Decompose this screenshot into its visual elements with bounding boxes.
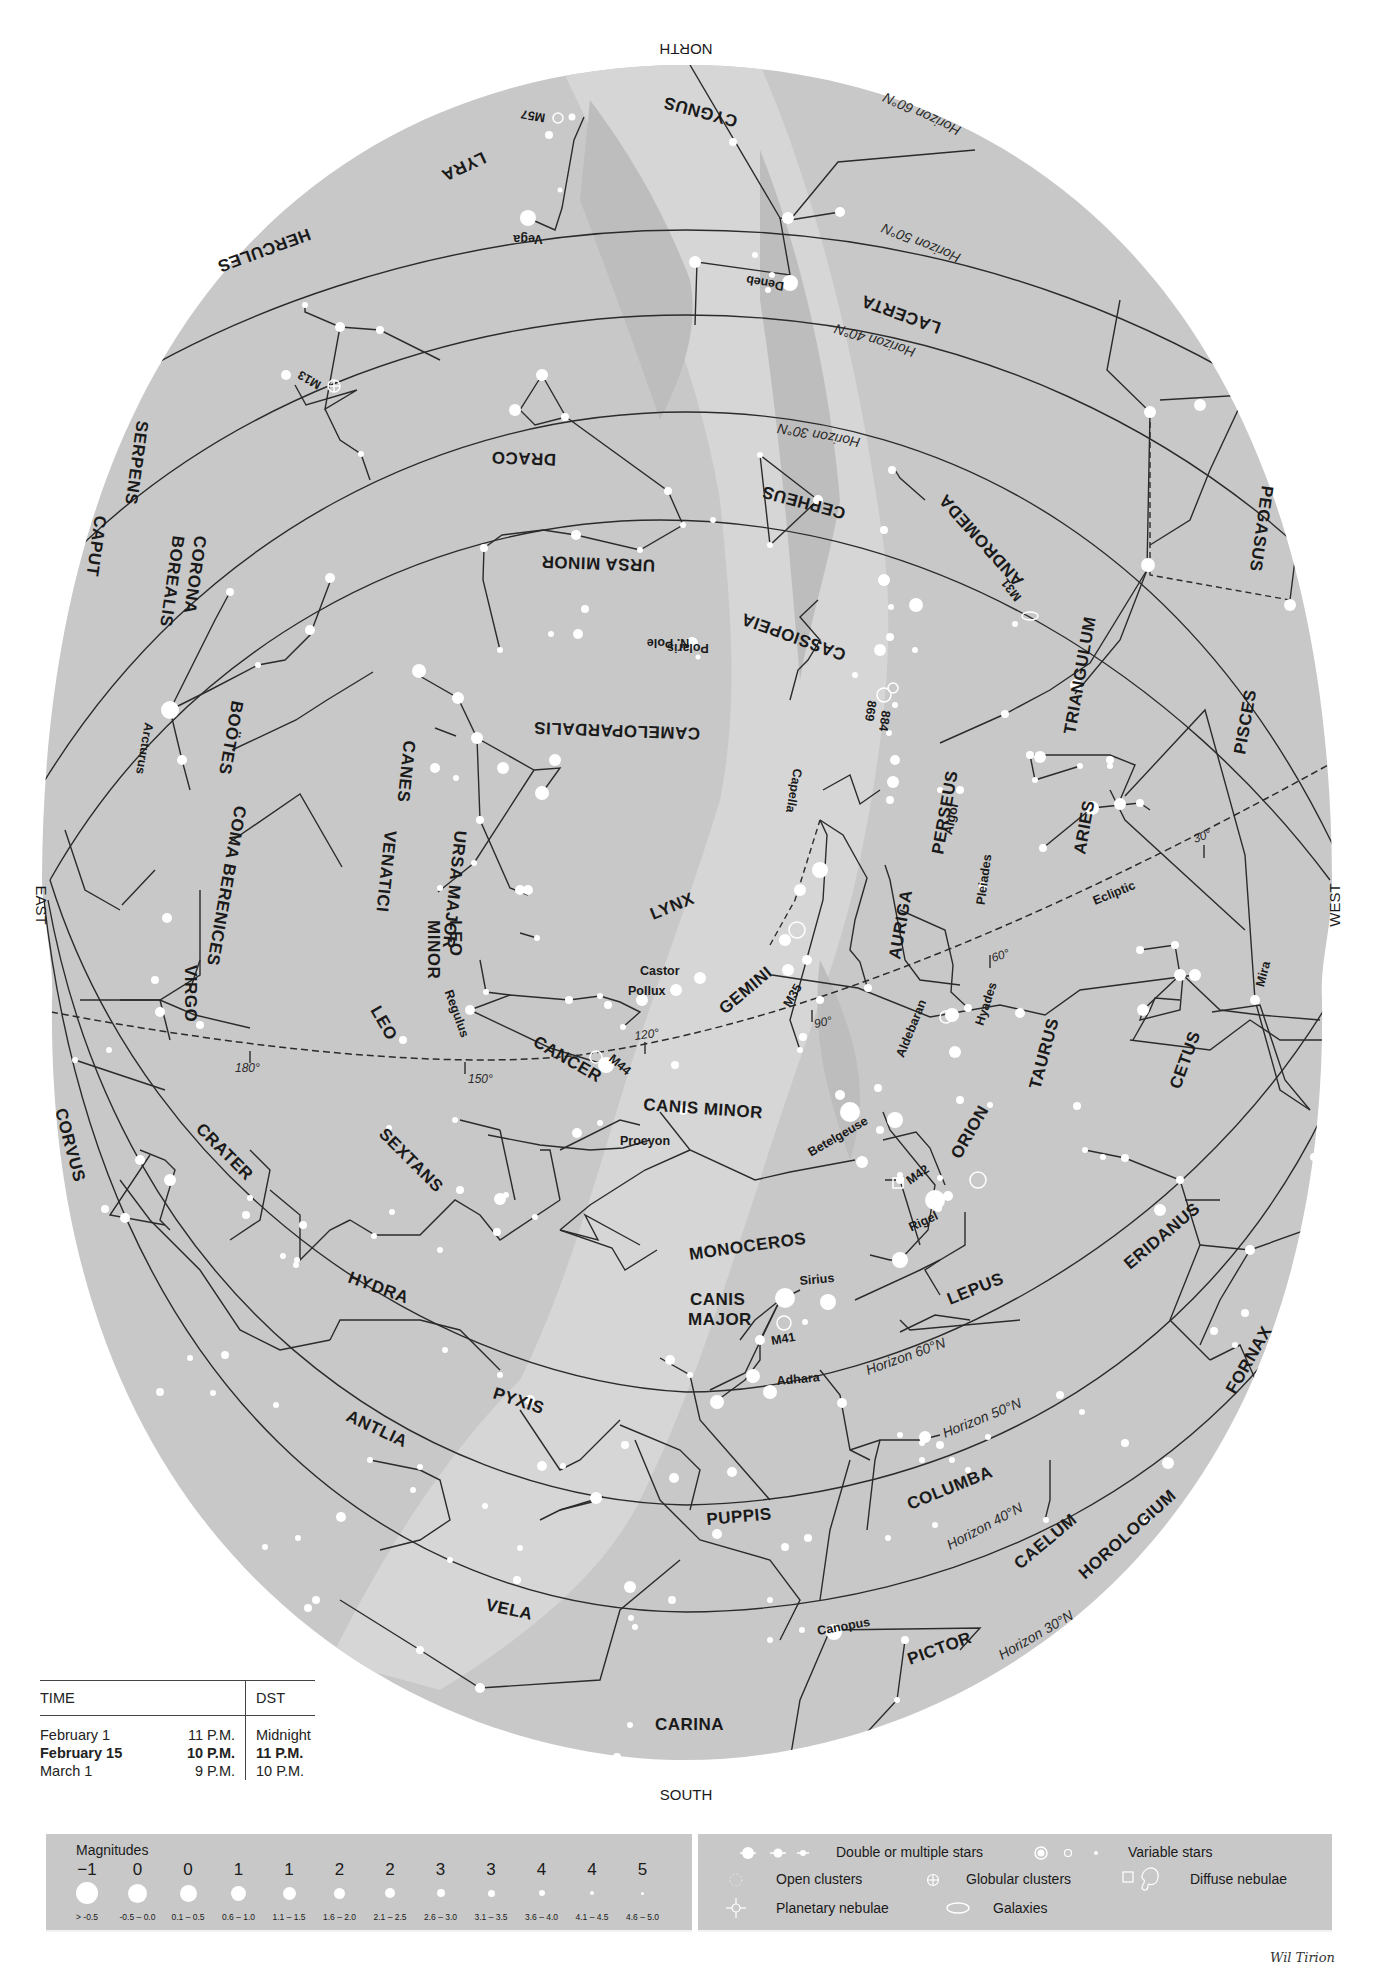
svg-text:Castor: Castor bbox=[640, 964, 680, 978]
magnitude-value: 5 bbox=[618, 1860, 668, 1880]
magnitude-dot-icon bbox=[488, 1890, 495, 1897]
svg-text:DRACO: DRACO bbox=[491, 448, 556, 469]
double-star-icon bbox=[738, 1844, 818, 1862]
svg-text:180°: 180° bbox=[235, 1061, 260, 1075]
magnitude-legend: Magnitudes −1> -0.50-0.5 – 0.000.1 – 0.5… bbox=[46, 1834, 692, 1932]
north-label: NORTH bbox=[659, 41, 712, 58]
magnitude-value: 0 bbox=[113, 1860, 163, 1880]
svg-text:CARINA: CARINA bbox=[655, 1715, 724, 1734]
magnitude-range: 4.6 – 5.0 bbox=[608, 1912, 678, 1922]
dst-header: DST bbox=[246, 1690, 285, 1706]
magnitude-dot-icon bbox=[539, 1890, 545, 1896]
time-row: March 1 9 P.M. 10 P.M. bbox=[40, 1762, 315, 1780]
legend-galaxies: Galaxies bbox=[993, 1900, 1047, 1916]
svg-text:884: 884 bbox=[876, 710, 893, 733]
magnitude-value: 4 bbox=[567, 1860, 617, 1880]
magnitude-value: 1 bbox=[214, 1860, 264, 1880]
svg-text:MAJOR: MAJOR bbox=[688, 1310, 752, 1329]
magnitude-value: −1 bbox=[62, 1860, 112, 1880]
svg-text:LEO: LEO bbox=[446, 920, 465, 956]
globular-cluster-icon bbox=[923, 1871, 943, 1889]
magnitude-dot-icon bbox=[283, 1887, 296, 1900]
star-chart: NORTH SOUTH EAST WEST CYGNUS LYRA HERCUL… bbox=[0, 0, 1373, 1820]
legend-globular-clusters: Globular clusters bbox=[966, 1871, 1071, 1887]
svg-text:N. Pole: N. Pole bbox=[647, 636, 689, 650]
magnitude-value: 1 bbox=[264, 1860, 314, 1880]
magnitude-value: 2 bbox=[315, 1860, 365, 1880]
magnitude-value: 3 bbox=[416, 1860, 466, 1880]
east-label: EAST bbox=[33, 885, 50, 924]
svg-text:MINOR: MINOR bbox=[424, 920, 443, 979]
svg-text:CANIS: CANIS bbox=[690, 1290, 745, 1309]
time-table: TIME DST February 1 11 P.M. Midnight Feb… bbox=[40, 1680, 315, 1780]
magnitude-dot-icon bbox=[590, 1891, 594, 1895]
magnitude-dot-icon bbox=[231, 1886, 246, 1901]
magnitude-dot-icon bbox=[128, 1884, 147, 1903]
south-label: SOUTH bbox=[660, 1786, 713, 1803]
symbol-legend: Double or multiple stars Variable stars … bbox=[698, 1834, 1332, 1932]
legend-diffuse-nebulae: Diffuse nebulae bbox=[1190, 1871, 1287, 1887]
svg-text:Pollux: Pollux bbox=[628, 984, 666, 998]
magnitude-value: 0 bbox=[163, 1860, 213, 1880]
svg-text:869: 869 bbox=[862, 700, 879, 723]
time-row: February 1 11 P.M. Midnight bbox=[40, 1726, 315, 1744]
magnitude-dot-icon bbox=[437, 1889, 445, 1897]
svg-text:URSA MINOR: URSA MINOR bbox=[541, 552, 656, 575]
magnitude-item: 54.6 – 5.0 bbox=[618, 1860, 668, 1922]
magnitude-value: 2 bbox=[365, 1860, 415, 1880]
legend-double-stars: Double or multiple stars bbox=[836, 1844, 983, 1860]
magnitude-dot-icon bbox=[641, 1892, 644, 1895]
svg-text:150°: 150° bbox=[468, 1072, 493, 1086]
magnitude-dot-icon bbox=[180, 1885, 197, 1902]
planetary-nebula-icon bbox=[726, 1898, 746, 1918]
diffuse-nebula-icon bbox=[1120, 1864, 1170, 1894]
artist-signature: Wil Tirion bbox=[1270, 1950, 1335, 1965]
magnitude-dot-icon bbox=[76, 1882, 98, 1904]
svg-text:VIRGO: VIRGO bbox=[181, 965, 200, 1022]
magnitude-dot-icon bbox=[334, 1888, 345, 1899]
time-row-highlighted: February 15 10 P.M. 11 P.M. bbox=[40, 1744, 315, 1762]
magnitude-value: 4 bbox=[517, 1860, 567, 1880]
legend-variable-stars: Variable stars bbox=[1128, 1844, 1213, 1860]
galaxy-icon bbox=[943, 1900, 973, 1916]
open-cluster-icon bbox=[726, 1871, 746, 1889]
magnitude-value: 3 bbox=[466, 1860, 516, 1880]
legend-open-clusters: Open clusters bbox=[776, 1871, 862, 1887]
magnitude-legend-title: Magnitudes bbox=[76, 1842, 148, 1858]
magnitude-dot-icon bbox=[385, 1888, 395, 1898]
svg-text:Procyon: Procyon bbox=[620, 1134, 670, 1148]
time-header: TIME bbox=[40, 1690, 157, 1706]
west-label: WEST bbox=[1326, 883, 1343, 926]
variable-star-icon bbox=[1031, 1844, 1111, 1862]
legend-planetary-nebulae: Planetary nebulae bbox=[776, 1900, 889, 1916]
svg-text:Vega: Vega bbox=[512, 232, 542, 246]
